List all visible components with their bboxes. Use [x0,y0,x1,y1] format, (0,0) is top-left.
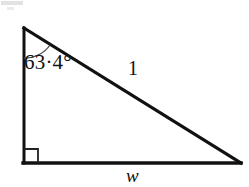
triangle-drawing [0,0,249,187]
angle-label: 63·4° [24,52,72,73]
right-angle-marker [24,149,38,163]
base-label: w [126,166,139,185]
hypotenuse-label: 1 [128,58,138,78]
triangle-figure: 63·4° 1 w [0,0,249,187]
hypotenuse [24,28,241,163]
